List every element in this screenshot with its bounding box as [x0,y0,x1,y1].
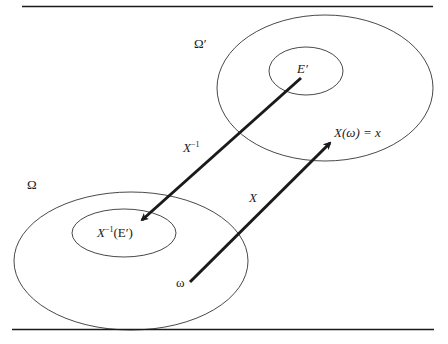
inverse-arrow-label-main: X [183,140,191,155]
mapping-diagram [0,0,448,344]
preimage-label-main: X [97,225,105,240]
e-prime-label: E′ [297,62,308,75]
inverse-map-arrow [142,78,301,220]
inverse-arrow-label: X−1 [183,141,199,154]
inverse-arrow-label-sup: −1 [191,140,200,149]
forward-arrow-label: X [249,191,257,204]
image-point-label: X(ω) = x [334,126,381,139]
preimage-label-arg: (E′) [113,225,132,240]
omega-label: Ω [27,178,37,191]
omega-point-label: ω [176,276,185,289]
forward-map-arrow [190,143,330,282]
omega-prime-label: Ω′ [194,37,207,50]
preimage-label: X−1(E′) [97,226,133,239]
omega-prime-set [217,15,433,161]
